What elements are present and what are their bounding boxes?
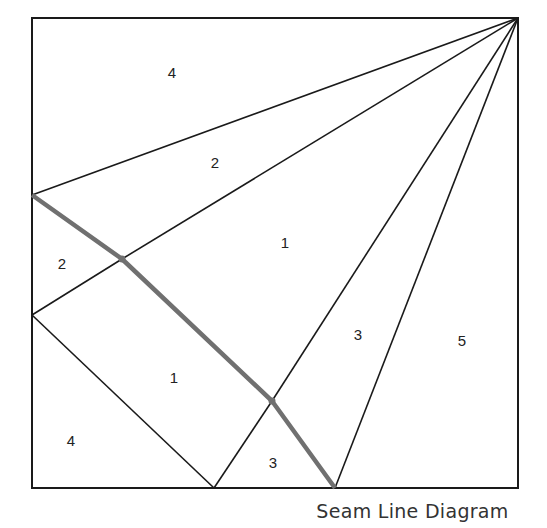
piece-line xyxy=(32,315,214,488)
ray-line xyxy=(122,18,518,259)
piece-lines xyxy=(32,259,272,488)
seam-line-diagram: 4 2 1 2 3 5 1 4 3 xyxy=(0,0,547,528)
seam-node xyxy=(119,256,126,263)
region-label: 2 xyxy=(211,154,219,171)
region-label: 4 xyxy=(168,64,176,81)
ray-line xyxy=(335,18,518,488)
region-label: 3 xyxy=(269,454,277,471)
region-label: 2 xyxy=(58,255,66,272)
block-frame xyxy=(32,18,518,488)
region-label: 4 xyxy=(67,432,75,449)
seam-node xyxy=(269,398,276,405)
region-label: 1 xyxy=(170,369,178,386)
diagram-caption: Seam Line Diagram xyxy=(300,500,525,522)
ray-line xyxy=(272,18,518,401)
region-labels: 4 2 1 2 3 5 1 4 3 xyxy=(58,64,466,471)
piece-line xyxy=(214,401,272,488)
ray-line xyxy=(32,18,518,195)
ray-lines xyxy=(32,18,518,488)
region-label: 3 xyxy=(354,326,362,343)
seam-line xyxy=(32,195,335,488)
region-label: 5 xyxy=(458,332,466,349)
region-label: 1 xyxy=(281,234,289,251)
piece-line xyxy=(32,259,122,315)
